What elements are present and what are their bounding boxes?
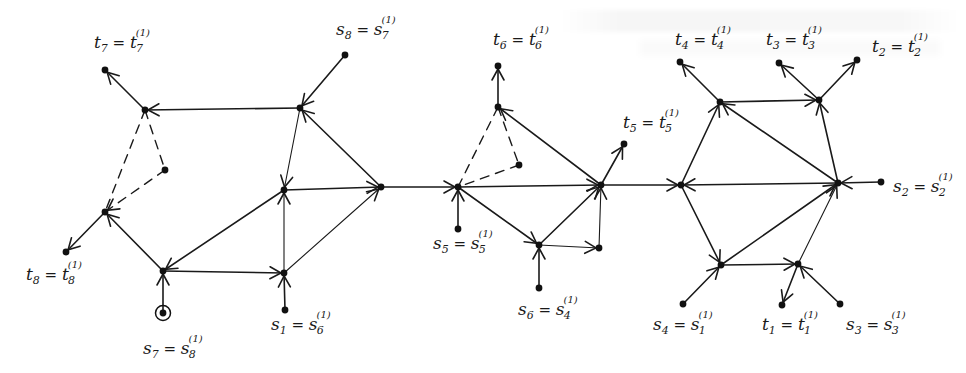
node-s4 [680, 301, 687, 308]
edge-P-t4 [680, 62, 720, 102]
node-H [281, 270, 288, 277]
edge-I-L [458, 185, 601, 187]
edge-Q-t3 [779, 63, 819, 100]
lbl-s6: s6 = s(1)4 [518, 294, 578, 322]
edge-L-t5 [601, 144, 624, 185]
node-t2 [854, 57, 861, 64]
node-s1 [282, 307, 289, 314]
node-D [102, 209, 109, 216]
node-O [678, 182, 685, 189]
edge-N-L [599, 185, 601, 248]
lbl-t6: t6 = t(1)6 [493, 24, 549, 52]
graph-diagram: t7 = t(1)7s8 = s(1)7t8 = t(1)8s7 = s(1)8… [0, 0, 966, 373]
node-s6 [536, 285, 543, 292]
edge-s8-B [300, 55, 345, 108]
node-t1 [779, 302, 786, 309]
lbl-t5: t5 = t(1)5 [623, 107, 679, 135]
lbl-t7: t7 = t(1)7 [94, 27, 150, 55]
edge-F-G [284, 187, 381, 190]
edges-layer [66, 55, 881, 313]
edge-s3-T [798, 264, 840, 304]
edge-B-A [145, 108, 300, 110]
edge-s4-S [683, 265, 721, 304]
edge-M-N [539, 245, 599, 248]
node-R [835, 180, 842, 187]
lbl-s7: s7 = s(1)8 [143, 333, 203, 361]
lbl-t8: t8 = t(1)8 [26, 259, 82, 287]
node-s5 [455, 226, 462, 233]
node-t8 [63, 249, 70, 256]
background-bleed-text [640, 40, 940, 56]
node-L [598, 182, 605, 189]
node-t5 [621, 141, 628, 148]
background-bleed-text [560, 10, 960, 32]
lbl-t1: t1 = t(1)1 [762, 309, 818, 337]
edge-P-Q [720, 100, 819, 102]
edge-M-L [539, 185, 601, 245]
node-J [495, 104, 502, 111]
node-s3 [837, 301, 844, 308]
lbl-s2: s2 = s(1)2 [893, 171, 953, 199]
edge-A-D [105, 110, 145, 212]
node-A [142, 107, 149, 114]
edge-S-T [721, 264, 798, 265]
node-Q [816, 97, 823, 104]
node-T [795, 261, 802, 268]
node-s2 [878, 179, 885, 186]
edge-I-J [458, 107, 498, 187]
node-P [717, 99, 724, 106]
node-s7 [160, 310, 167, 317]
lbl-s8: s8 = s(1)7 [336, 14, 396, 42]
edge-C-D [105, 170, 165, 212]
node-s8 [342, 52, 349, 59]
edge-E-H [163, 271, 284, 273]
node-t4 [677, 59, 684, 66]
node-I [455, 184, 462, 191]
edge-O-S [681, 185, 721, 265]
lbl-s4: s4 = s(1)1 [653, 309, 713, 337]
edge-A-C [145, 110, 165, 170]
node-G [378, 184, 385, 191]
edge-R-P [720, 102, 838, 183]
edge-F-E [163, 190, 284, 271]
node-N [596, 245, 603, 252]
node-B [297, 105, 304, 112]
edge-Q-t2 [819, 60, 857, 100]
node-S [718, 262, 725, 269]
edge-A-t7 [105, 70, 145, 110]
edge-S-R [721, 183, 838, 265]
edge-s2-R [838, 182, 881, 183]
node-K [516, 162, 523, 169]
node-E [160, 268, 167, 275]
node-t3 [776, 60, 783, 67]
edge-D-t8 [66, 212, 105, 252]
edge-L-J [498, 107, 601, 185]
edge-R-O [681, 183, 838, 185]
lbl-s3: s3 = s(1)3 [846, 309, 906, 337]
edge-H-G [284, 187, 381, 273]
lbl-s5: s5 = s(1)5 [433, 228, 493, 256]
edge-T-R [798, 183, 838, 264]
node-F [281, 187, 288, 194]
node-M [536, 242, 543, 249]
labels-layer: t7 = t(1)7s8 = s(1)7t8 = t(1)8s7 = s(1)8… [26, 14, 953, 361]
node-t7 [102, 67, 109, 74]
edge-E-D [105, 212, 163, 271]
lbl-s1: s1 = s(1)6 [271, 309, 331, 337]
edge-O-P [681, 102, 720, 185]
edge-G-B [300, 108, 381, 187]
node-C [162, 167, 169, 174]
node-t6 [495, 63, 502, 70]
